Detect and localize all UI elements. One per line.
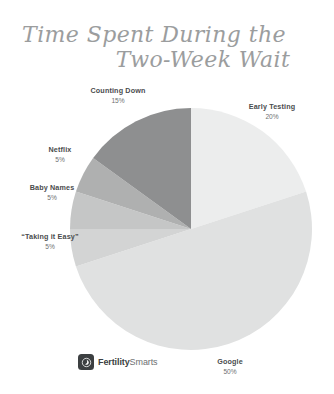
slice-label-value: 50% (178, 368, 282, 376)
brand-logo: FertilitySmarts (78, 354, 158, 370)
slice-label-counting-down: Counting Down 15% (66, 86, 170, 105)
fertility-drop-icon (78, 354, 94, 370)
slice-label-value: 15% (66, 97, 170, 105)
slice-label-name: Counting Down (66, 86, 170, 95)
slice-label-name: Google (178, 357, 282, 366)
brand-name-bold: Fertility (98, 357, 130, 367)
slice-label-google: Google 50% (178, 357, 282, 376)
infographic-canvas: Time Spent During the Two-Week Wait Coun… (0, 0, 334, 394)
title-line-2: Two-Week Wait (0, 47, 334, 72)
title-line-1: Time Spent During the (0, 22, 334, 47)
pie-chart-svg (70, 108, 312, 350)
page-title: Time Spent During the Two-Week Wait (0, 22, 334, 72)
brand-name-light: Smarts (130, 357, 158, 367)
brand-name: FertilitySmarts (98, 357, 158, 367)
pie-chart (70, 108, 312, 350)
